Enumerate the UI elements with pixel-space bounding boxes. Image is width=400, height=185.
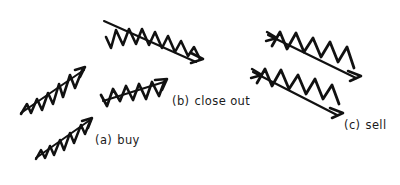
arrow-sell-lower: [251, 69, 343, 118]
label-buy: (a)buy: [95, 135, 140, 147]
label-sell-tag: (c): [344, 118, 361, 132]
label-close-out-text: close out: [194, 94, 250, 108]
arrow-sell-upper-zigzag: [272, 32, 354, 68]
arrow-closeout-upper-zigzag: [106, 29, 200, 59]
arrow-closeout-lower: [101, 79, 167, 106]
arrow-buy-upper: [21, 67, 85, 114]
label-buy-tag: (a): [95, 133, 112, 147]
label-close-out: (b)close out: [172, 96, 250, 108]
arrow-buy-lower: [36, 118, 92, 159]
arrow-sell-lower-zigzag: [257, 69, 339, 104]
label-sell-text: sell: [366, 118, 387, 132]
label-sell: (c)sell: [344, 120, 387, 132]
arrow-buy-upper-shaft: [21, 70, 84, 113]
arrow-closeout-upper: [104, 21, 203, 63]
figure-canvas: [0, 0, 400, 185]
label-close-out-tag: (b): [172, 94, 189, 108]
label-buy-text: buy: [117, 133, 140, 147]
trend-arrow-figure: (a)buy (b)close out (c)sell: [0, 0, 400, 185]
